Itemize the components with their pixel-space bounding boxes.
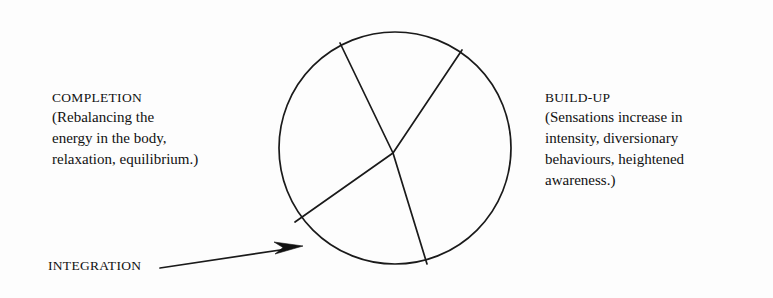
cycle-diagram: COMPLETION (Rebalancing the energy in th…: [0, 0, 773, 298]
divider-integration-bottom: [393, 153, 427, 264]
integration-arrow-head: [274, 242, 303, 254]
divider-completion-buildup: [340, 43, 393, 153]
annotation-completion: COMPLETION (Rebalancing the energy in th…: [52, 88, 198, 170]
annotation-build-up: BUILD-UP (Sensations increase in intensi…: [545, 88, 684, 191]
divider-integration-completion: [295, 153, 393, 222]
annotation-completion-heading: COMPLETION: [52, 88, 198, 107]
integration-arrow-shaft: [160, 249, 287, 268]
annotation-build-up-line-1: (Sensations increase in: [545, 107, 684, 128]
cycle-circle-outline: [279, 32, 511, 264]
annotation-build-up-heading: BUILD-UP: [545, 88, 684, 107]
annotation-build-up-line-3: behaviours, heightened: [545, 149, 684, 170]
annotation-integration: INTEGRATION: [48, 256, 141, 275]
annotation-completion-line-3: relaxation, equilibrium.): [52, 149, 198, 170]
annotation-build-up-line-4: awareness.): [545, 170, 684, 191]
annotation-build-up-line-2: intensity, diversionary: [545, 128, 684, 149]
annotation-integration-heading: INTEGRATION: [48, 258, 141, 273]
annotation-completion-line-2: energy in the body,: [52, 128, 198, 149]
divider-buildup-integration: [393, 50, 462, 153]
annotation-completion-line-1: (Rebalancing the: [52, 107, 198, 128]
